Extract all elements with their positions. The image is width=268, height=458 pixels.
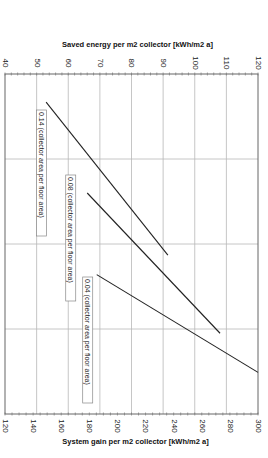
chart: Saved energy per m2 collector [kWh/m2 a]… bbox=[0, 0, 268, 458]
bottom-axis-tick-label: 200 bbox=[113, 419, 122, 433]
series-label: 0.14 (collector area per floor area) bbox=[37, 110, 47, 236]
top-axis-tick-label: 90 bbox=[159, 59, 168, 68]
bottom-axis-tick-label: 180 bbox=[85, 419, 94, 433]
top-axis-tick-label: 80 bbox=[127, 59, 136, 68]
top-axis-tick-label: 70 bbox=[96, 59, 105, 68]
bottom-axis-tick-label: 260 bbox=[198, 419, 207, 433]
top-axis-tick-label: 120 bbox=[254, 56, 263, 70]
bottom-axis-tick-label: 220 bbox=[141, 419, 150, 433]
bottom-axis-tick-label: 300 bbox=[254, 419, 263, 433]
series-label-text: 0.04 (collector area per floor area) bbox=[83, 279, 91, 385]
series-label-text: 0.08 (collector area per floor area) bbox=[66, 177, 74, 283]
series-label-text: 0.14 (collector area per floor area) bbox=[37, 112, 45, 218]
top-axis-tick-labels: 405060708090100110120 bbox=[1, 56, 263, 70]
series-line bbox=[97, 275, 258, 373]
series-label: 0.04 (collector area per floor area) bbox=[83, 277, 93, 403]
bottom-axis-tick-label: 120 bbox=[1, 419, 10, 433]
series-label: 0.08 (collector area per floor area) bbox=[66, 175, 76, 301]
bottom-axis-tick-labels: 120140160180200220240260280300 bbox=[1, 419, 263, 433]
series-line bbox=[46, 102, 168, 255]
bottom-axis-title: System gain per m2 collector [kWh/m2 a] bbox=[62, 437, 209, 446]
bottom-axis-tick-label: 160 bbox=[57, 419, 66, 433]
top-axis-tick-label: 100 bbox=[191, 56, 200, 70]
series-line bbox=[87, 193, 220, 333]
top-axis-tick-label: 110 bbox=[222, 57, 231, 70]
top-axis-title: Saved energy per m2 collector [kWh/m2 a] bbox=[62, 40, 213, 49]
bottom-axis-tick-label: 240 bbox=[170, 419, 179, 433]
top-axis-tick-label: 50 bbox=[33, 59, 42, 68]
bottom-axis-tick-label: 280 bbox=[226, 419, 235, 433]
top-axis-tick-label: 60 bbox=[64, 59, 73, 68]
top-axis-tick-label: 40 bbox=[1, 59, 10, 68]
bottom-axis-tick-label: 140 bbox=[29, 419, 38, 433]
series-labels: 0.14 (collector area per floor area)0.08… bbox=[37, 110, 93, 403]
